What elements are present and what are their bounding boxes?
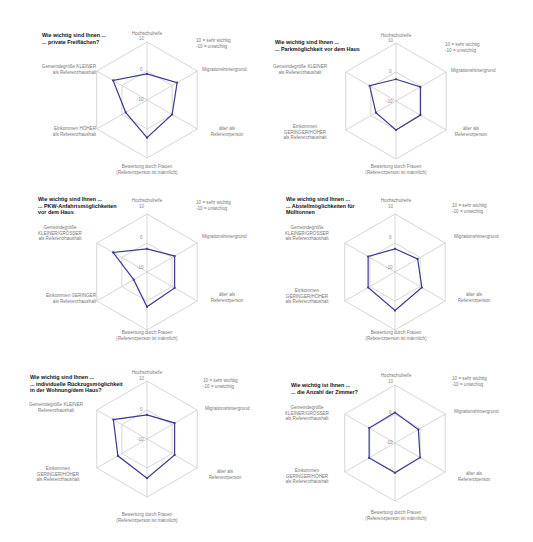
data-point xyxy=(421,286,423,288)
radar-svg xyxy=(249,0,515,180)
data-point xyxy=(174,287,176,289)
axis-label-migrationshintergrund: Migrationshintergrund xyxy=(454,234,516,240)
radar-chart-muelltonnen: Wie wichtig sind Ihnen ... ... Abstellmö… xyxy=(249,172,515,352)
scale-legend: 10 = sehr wichtig -10 = unwichtig xyxy=(452,376,487,388)
data-point xyxy=(394,472,396,474)
axis-label-aelter: älter als Referenzperson xyxy=(449,292,499,303)
axis-label-gemeindegroesse: Gemeindegröße KLEINER/GRÖSSER als Refere… xyxy=(24,225,96,242)
chart-title: Wie wichtig sind Ihnen ... ... private F… xyxy=(42,32,106,45)
data-point xyxy=(367,255,369,257)
data-point xyxy=(419,456,421,458)
data-point xyxy=(174,255,176,257)
data-point xyxy=(146,137,148,139)
axis-label-hochschulreife: Hochschulreife xyxy=(366,33,426,39)
data-point xyxy=(174,422,176,424)
data-point xyxy=(112,79,114,81)
axis-label-einkommen: Einkommen GERINGER/HÖHER als Referenzhau… xyxy=(271,288,343,305)
tick-minus-10: -10 xyxy=(386,99,393,104)
axis-label-hochschulreife: Hochschulreife xyxy=(117,198,177,204)
data-point xyxy=(171,113,173,115)
axis-label-einkommen: Einkommen HÖHER als Referenzhaushalt xyxy=(26,126,96,137)
radar-svg xyxy=(249,344,515,524)
tick-0: 0 xyxy=(140,407,143,412)
tick-10: 10 xyxy=(388,204,393,209)
axis-label-bewertung: Bewertung durch Frauen (Referenzperson i… xyxy=(107,330,187,341)
axis-label-bewertung: Bewertung durch Frauen (Referenzperson i… xyxy=(356,330,436,341)
data-point xyxy=(417,258,419,260)
tick-10: 10 xyxy=(139,376,144,381)
data-point xyxy=(133,279,135,281)
axis-label-hochschulreife: Hochschulreife xyxy=(366,373,426,379)
data-point xyxy=(394,248,396,250)
axis-label-einkommen: Einkommen GERINGER/HÖHER als Referenzhau… xyxy=(22,466,94,483)
axis-label-gemeindegroesse: Gemeindegröße KLEINER als Referenzhausha… xyxy=(259,64,341,75)
tick-minus-10: -10 xyxy=(137,265,144,270)
data-point xyxy=(117,455,119,457)
tick-10: 10 xyxy=(388,379,393,384)
axis-label-gemeindegroesse: Gemeindegröße KLEINER Referenzhaushalt xyxy=(16,402,96,413)
chart-title: Wie wichtig ist Ihnen ... ... die Anzahl… xyxy=(291,382,358,395)
data-point xyxy=(419,114,421,116)
axis-label-aelter: älter als Referenzperson xyxy=(449,471,499,482)
data-point xyxy=(419,86,421,88)
data-point xyxy=(146,306,148,308)
tick-0: 0 xyxy=(389,410,392,415)
tick-10: 10 xyxy=(139,204,144,209)
axis-label-aelter: älter als Referenzperson xyxy=(200,469,250,480)
tick-0: 0 xyxy=(389,69,392,74)
axis-label-aelter: älter als Referenzperson xyxy=(202,126,252,137)
data-point xyxy=(112,418,114,420)
tick-0: 0 xyxy=(389,235,392,240)
tick-10: 10 xyxy=(388,38,393,43)
radar-chart-rueckzugsmoeglichkeit: Wie wichtig sind Ihnen ... ... individue… xyxy=(0,344,266,524)
radar-svg xyxy=(0,0,266,180)
data-point xyxy=(417,428,419,430)
data-point xyxy=(146,477,148,479)
tick-minus-10: -10 xyxy=(386,440,393,445)
tick-0: 0 xyxy=(140,235,143,240)
axis-label-gemeindegroesse: Gemeindegröße KLEINER als Referenzhausha… xyxy=(16,64,96,75)
tick-minus-10: -10 xyxy=(386,265,393,270)
axis-label-einkommen: Einkommen GERINGER/HÖHER als Referenzhau… xyxy=(271,468,343,485)
data-point xyxy=(146,73,148,75)
chart-title: Wie wichtig sind Ihnen ... ... individue… xyxy=(30,374,123,394)
radar-chart-parkmoeglichkeit: Wie wichtig sind Ihnen ... ... Parkmögli… xyxy=(249,0,515,180)
tick-minus-10: -10 xyxy=(137,437,144,442)
axis-label-hochschulreife: Hochschulreife xyxy=(117,31,177,37)
data-point xyxy=(394,309,396,311)
axis-label-hochschulreife: Hochschulreife xyxy=(117,370,177,376)
scale-legend: 10 = sehr wichtig -10 = unwichtig xyxy=(203,378,238,390)
data-point xyxy=(368,427,370,429)
axis-label-hochschulreife: Hochschulreife xyxy=(366,198,426,204)
axis-label-gemeindegroesse: Gemeindegröße KLEINER/GRÖSSER als Refere… xyxy=(271,225,343,242)
data-point xyxy=(112,251,114,253)
chart-title: Wie wichtig sind Ihnen ... ... Parkmögli… xyxy=(275,39,360,52)
axis-label-gemeindegroesse: Gemeindegröße KLEINER/GRÖSSER als Refere… xyxy=(271,405,343,422)
axis-label-einkommen: Einkommen GERINGER/HÖHER als Referenzhau… xyxy=(269,124,341,141)
scale-legend: 10 = sehr wichtig -10 = unwichtig xyxy=(196,38,231,50)
data-point xyxy=(395,129,397,131)
axis-label-aelter: älter als Referenzperson xyxy=(446,126,496,137)
data-point xyxy=(367,286,369,288)
data-point xyxy=(176,82,178,84)
data-point xyxy=(369,85,371,87)
data-point xyxy=(125,111,127,113)
tick-0: 0 xyxy=(140,67,143,72)
axis-label-einkommen: Einkommen GERINGER als Referenzhaushalt xyxy=(20,293,96,304)
axis-label-aelter: älter als Referenzperson xyxy=(202,292,252,303)
data-point xyxy=(368,457,370,459)
axis-label-bewertung: Bewertung durch Frauen (Referenzperson i… xyxy=(356,510,436,521)
axis-label-bewertung: Bewertung durch Frauen (Referenzperson i… xyxy=(107,512,187,523)
axis-label-migrationshintergrund: Migrationshintergrund xyxy=(451,68,513,74)
data-point xyxy=(174,454,176,456)
scale-legend: 10 = sehr wichtig -10 = unwichtig xyxy=(196,200,231,212)
data-point xyxy=(375,112,377,114)
data-point xyxy=(146,414,148,416)
chart-title: Wie wichtig sind Ihnen ... ... PKW-Anfah… xyxy=(38,196,117,216)
chart-title: Wie wichtig sind Ihnen ... ... Abstellmö… xyxy=(286,196,355,216)
radar-chart-pkw-anfahrt: Wie wichtig sind Ihnen ... ... PKW-Anfah… xyxy=(0,172,266,352)
scale-legend: 10 = sehr wichtig -10 = unwichtig xyxy=(445,42,480,54)
data-point xyxy=(146,248,148,250)
tick-10: 10 xyxy=(139,36,144,41)
series-line xyxy=(370,79,421,130)
